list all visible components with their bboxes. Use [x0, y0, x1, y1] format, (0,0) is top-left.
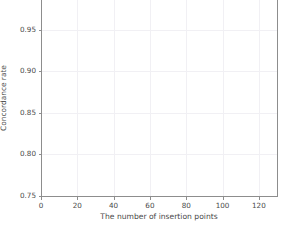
x-tick-label: 100: [216, 202, 230, 209]
x-tick-mark: [259, 197, 260, 200]
chart-figure: 0.750.800.850.900.95 020406080100120 Con…: [0, 0, 287, 229]
x-tick-label: 0: [39, 202, 44, 209]
y-tick-mark: [39, 113, 42, 114]
y-tick-label: 0.90: [20, 68, 36, 75]
gridline-vertical: [259, 0, 260, 196]
gridline-vertical: [114, 0, 115, 196]
y-tick-label: 0.80: [20, 151, 36, 158]
plot-area: [41, 0, 278, 197]
x-tick-label: 40: [109, 202, 118, 209]
plot-inner: [41, 0, 277, 196]
x-tick-mark: [150, 197, 151, 200]
y-axis-label: Concordance rate: [0, 65, 8, 131]
x-tick-label: 60: [145, 202, 154, 209]
gridline-vertical: [223, 0, 224, 196]
gridline-vertical: [77, 0, 78, 196]
x-tick-label: 20: [73, 202, 82, 209]
x-tick-label: 80: [182, 202, 191, 209]
x-tick-mark: [114, 197, 115, 200]
x-axis-label: The number of insertion points: [100, 212, 217, 221]
y-tick-label: 0.85: [20, 109, 36, 116]
y-tick-mark: [39, 30, 42, 31]
x-tick-mark: [223, 197, 224, 200]
axis-spine-right: [277, 0, 278, 197]
x-tick-mark: [41, 197, 42, 200]
gridline-vertical: [150, 0, 151, 196]
x-tick-mark: [77, 197, 78, 200]
gridline-vertical: [186, 0, 187, 196]
y-tick-mark: [39, 154, 42, 155]
x-tick-label: 120: [252, 202, 266, 209]
y-tick-mark: [39, 71, 42, 72]
y-tick-label: 0.95: [20, 26, 36, 33]
x-tick-mark: [186, 197, 187, 200]
